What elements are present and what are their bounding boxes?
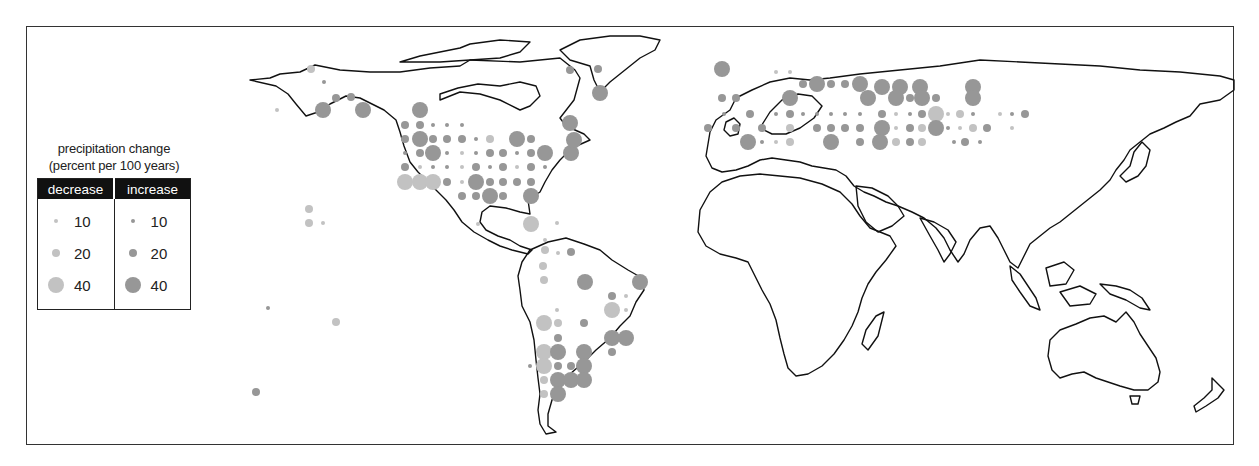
increase-dot bbox=[550, 386, 566, 402]
legend-column-decrease: 10 20 40 bbox=[38, 199, 115, 310]
increase-dot bbox=[445, 151, 449, 155]
increase-dot bbox=[1010, 112, 1014, 116]
increase-dot bbox=[523, 188, 539, 204]
increase-dot bbox=[472, 163, 480, 171]
increase-dot bbox=[474, 137, 478, 141]
decrease-dot bbox=[969, 124, 977, 132]
decrease-dot bbox=[894, 112, 898, 116]
decrease-dot bbox=[918, 138, 926, 146]
legend-entry: 20 bbox=[115, 237, 190, 269]
increase-dot bbox=[543, 165, 547, 169]
coastline-arabia bbox=[856, 186, 904, 232]
increase-dot bbox=[482, 188, 498, 204]
increase-dot bbox=[860, 90, 876, 106]
increase-dot bbox=[908, 112, 912, 116]
increase-dot bbox=[332, 94, 340, 102]
increase-dot bbox=[576, 344, 592, 360]
coastline-canadian-arctic bbox=[400, 40, 540, 110]
increase-dot bbox=[722, 112, 726, 116]
increase-dot bbox=[809, 76, 825, 92]
increase-dot bbox=[474, 151, 478, 155]
decrease-dot bbox=[540, 390, 548, 398]
increase-dot bbox=[841, 124, 849, 132]
increase-dot bbox=[468, 174, 484, 190]
increase-dot bbox=[515, 151, 519, 155]
increase-dot bbox=[594, 65, 602, 73]
decrease-dot bbox=[425, 174, 441, 190]
increase-dot bbox=[567, 362, 575, 370]
increase-dot bbox=[472, 192, 480, 200]
increase-dot bbox=[740, 134, 756, 150]
increase-dot bbox=[878, 110, 886, 118]
increase-dot bbox=[401, 135, 409, 143]
increase-dot bbox=[355, 102, 371, 118]
decrease-dot bbox=[523, 216, 539, 232]
increase-dot bbox=[412, 102, 428, 118]
increase-dot bbox=[874, 79, 890, 95]
increase-dot bbox=[813, 124, 821, 132]
decrease-dot bbox=[460, 165, 464, 169]
decrease-dot bbox=[555, 221, 559, 225]
increase-dot bbox=[550, 344, 566, 360]
decrease-dot bbox=[774, 70, 778, 74]
decrease-dot bbox=[543, 238, 547, 242]
increase-dot bbox=[527, 149, 535, 157]
coastline-madagascar bbox=[862, 312, 884, 350]
decrease-dot bbox=[515, 165, 519, 169]
decrease-dot bbox=[541, 246, 549, 254]
decrease-dot bbox=[946, 112, 950, 116]
increase-dot bbox=[425, 145, 441, 161]
increase-dot bbox=[252, 388, 260, 396]
decrease-dot bbox=[958, 126, 962, 130]
increase-dot bbox=[841, 80, 849, 88]
decrease-dot bbox=[536, 358, 552, 374]
legend-title-line2: (percent per 100 years) bbox=[34, 157, 194, 174]
decrease-dot bbox=[307, 65, 315, 73]
increase-dot bbox=[403, 151, 407, 155]
increase-dot bbox=[509, 131, 525, 147]
increase-dot bbox=[918, 110, 926, 118]
decrease-dot-large-icon bbox=[48, 277, 64, 293]
increase-dot bbox=[322, 80, 326, 84]
increase-dot bbox=[746, 110, 754, 118]
increase-dot bbox=[401, 121, 409, 129]
legend-entry: 40 bbox=[38, 269, 114, 301]
legend-entry: 10 bbox=[115, 205, 190, 237]
precipitation-dots bbox=[252, 61, 1029, 402]
decrease-dot bbox=[786, 124, 794, 132]
increase-dot bbox=[608, 348, 616, 356]
increase-dot bbox=[1021, 110, 1029, 118]
decrease-dot bbox=[418, 165, 422, 169]
legend-entry: 10 bbox=[38, 205, 114, 237]
increase-dot bbox=[445, 123, 449, 127]
decrease-dot bbox=[786, 138, 794, 146]
increase-dot bbox=[718, 94, 726, 102]
increase-dot bbox=[554, 334, 562, 342]
decrease-dot bbox=[305, 205, 313, 213]
decrease-dot bbox=[332, 318, 340, 326]
increase-dot bbox=[486, 149, 494, 157]
increase-dot bbox=[580, 319, 588, 327]
increase-dot bbox=[774, 112, 778, 116]
increase-dot bbox=[786, 110, 794, 118]
increase-dot bbox=[704, 124, 712, 132]
increase-dot bbox=[961, 138, 969, 146]
increase-dot-medium-icon bbox=[129, 249, 137, 257]
decrease-dot bbox=[305, 219, 313, 227]
increase-dot bbox=[760, 140, 764, 144]
decrease-dot bbox=[460, 151, 464, 155]
increase-dot bbox=[567, 248, 575, 256]
increase-dot bbox=[952, 140, 956, 144]
decrease-dot bbox=[624, 308, 628, 312]
increase-dot bbox=[315, 102, 331, 118]
increase-dot bbox=[801, 112, 805, 116]
decrease-dot bbox=[556, 251, 560, 255]
increase-dot bbox=[499, 192, 507, 200]
decrease-dot bbox=[928, 106, 944, 122]
decrease-dot bbox=[998, 112, 1002, 116]
increase-dot bbox=[576, 372, 592, 388]
increase-dot bbox=[932, 94, 940, 102]
increase-dot bbox=[429, 135, 437, 143]
increase-dot bbox=[856, 124, 864, 132]
increase-dot bbox=[499, 178, 507, 186]
